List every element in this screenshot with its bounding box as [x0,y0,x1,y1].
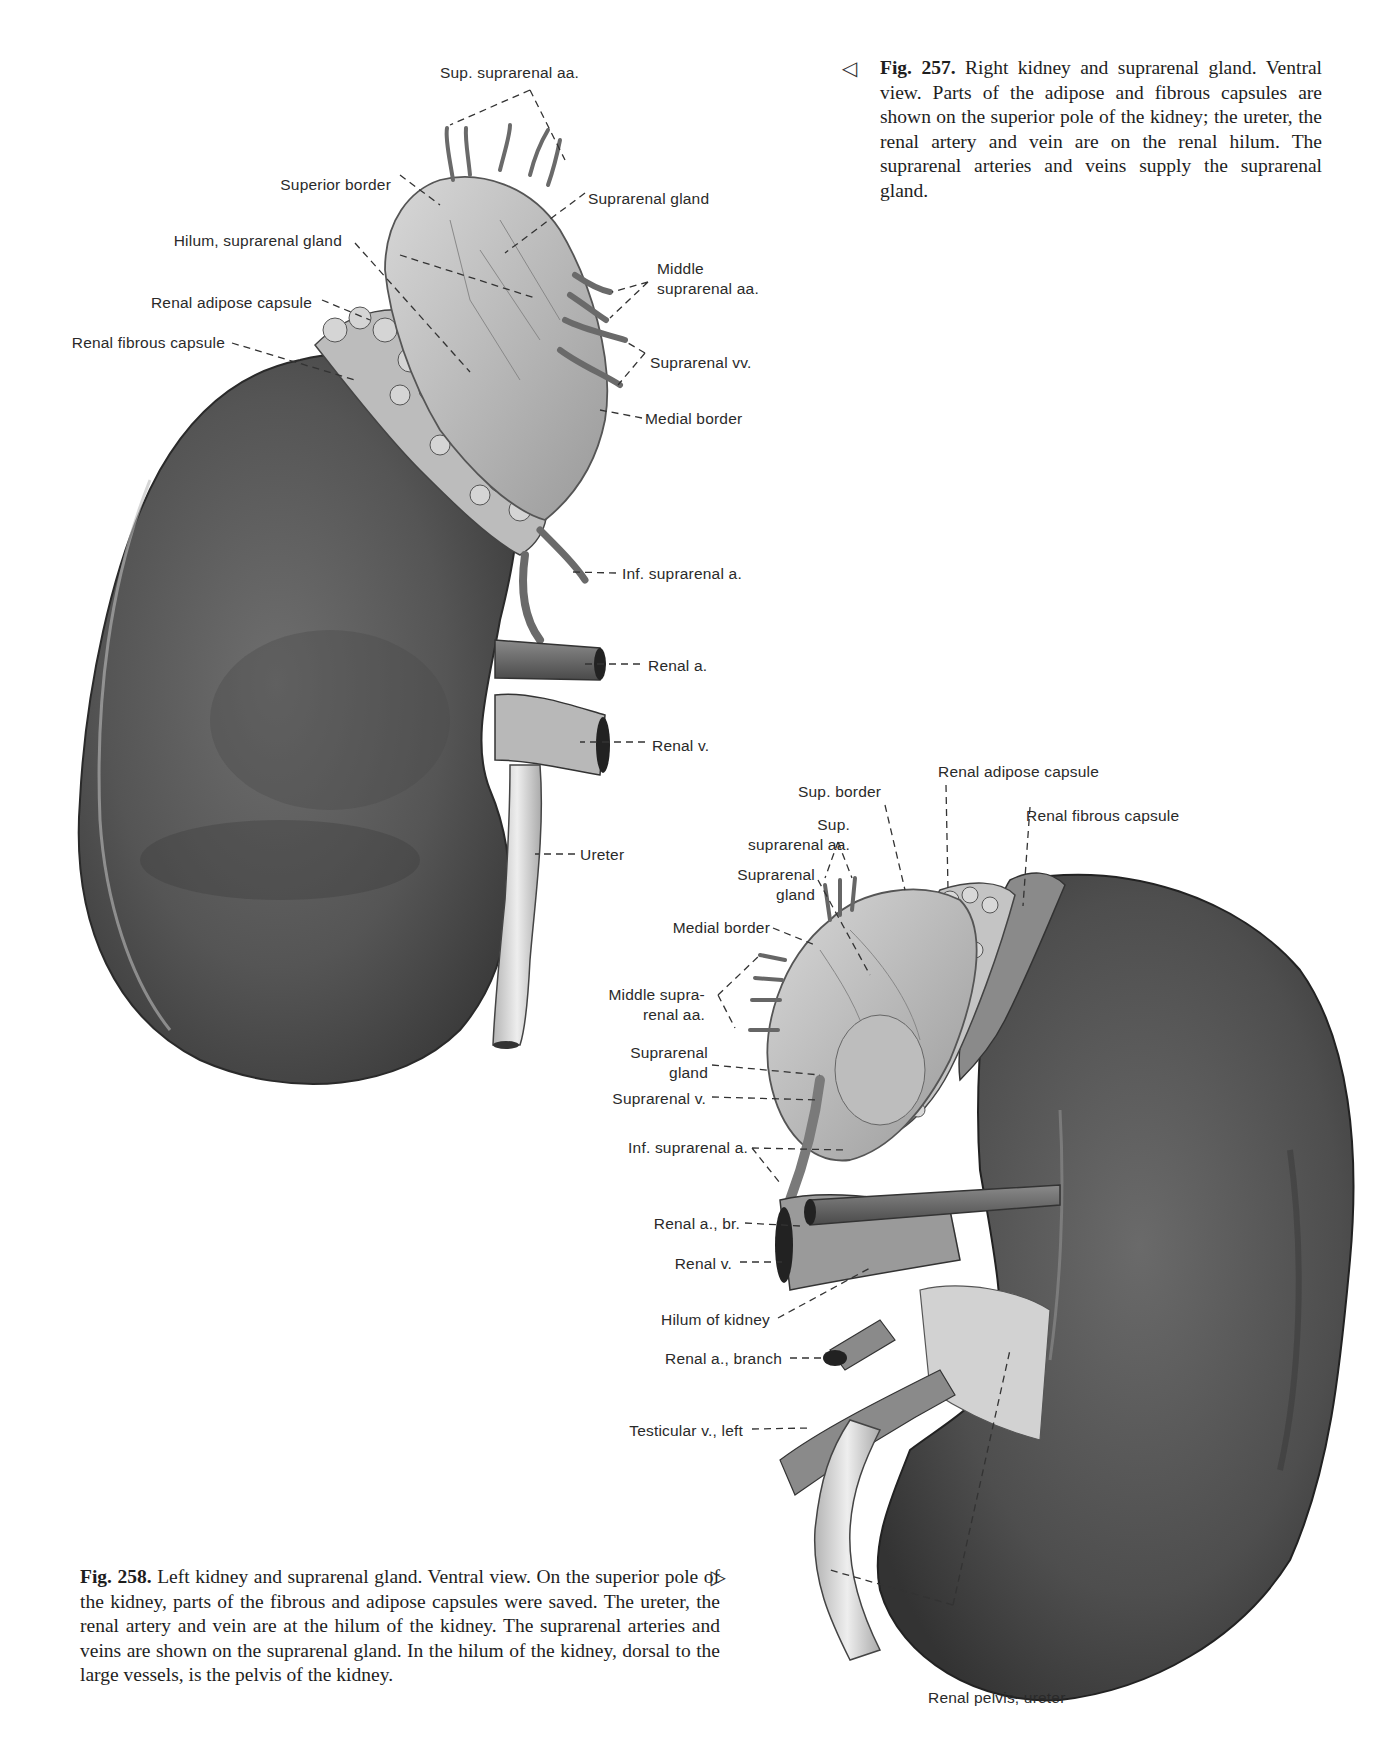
fig258-drawing [750,873,1353,1700]
label-superior-border: Superior border [236,175,391,194]
label-hilum-of-kidney: Hilum of kidney [600,1310,770,1329]
anatomy-page: Sup. suprarenal aa. Superior border Supr… [0,0,1395,1761]
label-renal-adipose-capsule: Renal adipose capsule [100,293,312,312]
label-renal-a: Renal a. [648,656,707,675]
label-renal-a-branch: Renal a., branch [600,1349,782,1368]
caption-fig-257: ◁ Fig. 257. Right kidney and suprarenal … [846,56,1322,203]
label-middle: Middle [657,259,704,278]
fig-257-number: Fig. 257. [880,57,956,78]
fig-257-text: Right kidney and suprarenal gland. Ventr… [880,57,1322,201]
label-suprarenal-gland: Suprarenal gland [588,189,709,208]
label-renal-aa: renal aa. [580,1005,705,1024]
label-inf-suprarenal-a-258: Inf. suprarenal a. [580,1138,748,1157]
label-middle-supra: Middle supra- [580,985,705,1004]
fig257-drawing [79,125,625,1084]
label-suprarenal-v: Suprarenal v. [580,1089,706,1108]
label-hilum-suprarenal-gland: Hilum, suprarenal gland [120,231,342,250]
label-renal-fibrous-capsule-258: Renal fibrous capsule [1026,806,1179,825]
label-gland-bottom: gland [600,1063,708,1082]
label-renal-pelvis-ureter: Renal pelvis, ureter [928,1688,1066,1707]
label-sup-suprarenal-aa-258: suprarenal aa. [720,835,850,854]
pointer-right-icon: ▷ [711,1565,726,1590]
label-gland-top: gland [700,885,815,904]
label-suprarenal-top: Suprarenal [700,865,815,884]
label-renal-adipose-capsule-258: Renal adipose capsule [938,762,1099,781]
label-middle-suprarenal-aa: suprarenal aa. [657,279,759,298]
label-sup: Sup. [760,815,850,834]
label-medial-border: Medial border [645,409,742,428]
label-ureter: Ureter [580,845,624,864]
fig-258-number: Fig. 258. [80,1566,152,1587]
label-renal-v: Renal v. [652,736,709,755]
label-sup-border: Sup. border [798,782,881,801]
caption-fig-258: Fig. 258. Left kidney and suprarenal gla… [80,1565,720,1688]
label-medial-border-258: Medial border [640,918,770,937]
label-suprarenal-vv: Suprarenal vv. [650,353,752,372]
label-renal-a-br: Renal a., br. [600,1214,740,1233]
label-renal-fibrous-capsule: Renal fibrous capsule [40,333,225,352]
label-renal-v-258: Renal v. [600,1254,732,1273]
fig-258-text: Left kidney and suprarenal gland. Ventra… [80,1566,720,1685]
pointer-left-icon: ◁ [842,56,857,81]
label-inf-suprarenal-a: Inf. suprarenal a. [622,564,742,583]
label-sup-suprarenal-aa: Sup. suprarenal aa. [440,63,579,82]
label-testicular-v-left: Testicular v., left [580,1421,743,1440]
label-suprarenal-bottom: Suprarenal [600,1043,708,1062]
